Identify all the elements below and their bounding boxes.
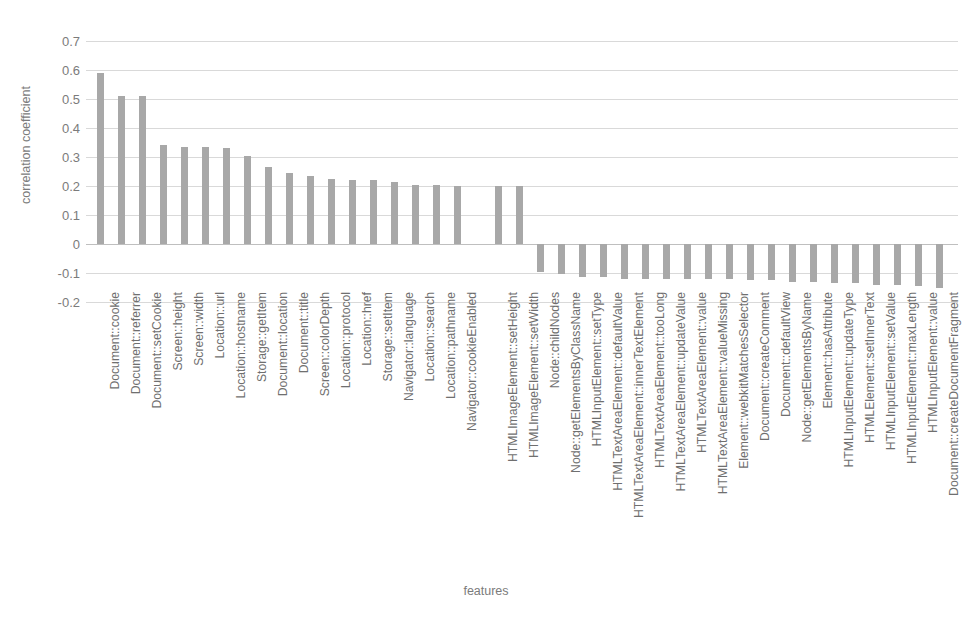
x-axis-category-label-text: HTMLElement::setInnerText — [864, 292, 876, 443]
x-axis-category-label-text: Document::setCookie — [151, 292, 163, 409]
bar — [852, 244, 859, 283]
y-axis-tick: -0.1 — [58, 267, 80, 280]
x-axis-category-label-text: Location::protocol — [340, 292, 352, 388]
x-axis-category-label-text: Document::referrer — [130, 292, 142, 394]
x-axis-category-label-text: Screen::width — [193, 292, 205, 366]
x-axis-category-label-text: Document::cookie — [109, 292, 121, 390]
bar — [810, 244, 817, 282]
x-axis-category-label-text: Document::defaultView — [780, 292, 792, 417]
x-axis-category-label: Document::createDocumentFragment — [944, 292, 956, 496]
bar — [831, 244, 838, 283]
x-axis-category-label: Storage::getItem — [252, 292, 264, 382]
y-axis-tick: -0.2 — [58, 296, 80, 309]
x-axis-category-label: HTMLElement::setInnerText — [860, 292, 872, 443]
x-axis-category-label-text: Document::title — [298, 292, 310, 373]
x-axis-category-label: HTMLInputElement::updateType — [839, 292, 851, 467]
x-axis-category-label-text: HTMLInputElement::value — [927, 292, 939, 433]
bar — [537, 244, 544, 272]
x-axis-category-label: Node::childNodes — [545, 292, 557, 388]
x-axis-category-label: Location::hostname — [231, 292, 243, 398]
x-axis-category-label-text: HTMLTextAreaElement::innerTextElement — [633, 292, 645, 518]
bar — [349, 180, 356, 244]
x-axis-category-label: HTMLInputElement::setValue — [881, 292, 893, 450]
x-axis-category-label: Node::getElementsByClassName — [566, 292, 578, 473]
y-axis-tick: 0.1 — [62, 209, 80, 222]
bar — [495, 186, 502, 244]
bar — [915, 244, 922, 286]
x-axis-category-label-text: Storage::getItem — [256, 292, 268, 382]
y-axis-tick: 0.4 — [62, 122, 80, 135]
x-axis-category-label-text: Screen::colorDepth — [319, 292, 331, 396]
x-axis-category-label-text: Node::getElementsByClassName — [570, 292, 582, 473]
x-axis-category-label: HTMLInputElement::value — [923, 292, 935, 433]
bar — [244, 156, 251, 244]
x-axis-category-label: Location::href — [357, 292, 369, 366]
bar — [139, 96, 146, 244]
bar — [97, 73, 104, 244]
x-axis-category-label: Screen::width — [189, 292, 201, 366]
x-axis-category-label: HTMLImageElement::setWidth — [524, 292, 536, 458]
bar — [265, 167, 272, 244]
x-axis-category-label: HTMLTextAreaElement::updateValue — [671, 292, 683, 491]
y-axis-tick: 0.6 — [62, 64, 80, 77]
y-axis-tick: 0.2 — [62, 180, 80, 193]
x-axis-category-label-text: HTMLTextAreaElement::value — [696, 292, 708, 453]
x-axis-category-label-text: Location::search — [424, 292, 436, 381]
y-axis-title-text: correlation coefficient — [19, 86, 33, 204]
x-axis-category-label: HTMLTextAreaElement::valueMissing — [713, 292, 725, 494]
bar — [223, 148, 230, 244]
bar — [454, 186, 461, 244]
x-axis-category-label: Screen::colorDepth — [315, 292, 327, 396]
x-axis-category-label-text: Element::webkitMatchesSelector — [738, 292, 750, 469]
bar — [579, 244, 586, 277]
x-axis-category-label: Document::defaultView — [776, 292, 788, 417]
x-axis-category-label-text: Navigator::language — [403, 292, 415, 401]
x-axis-category-label: HTMLTextAreaElement::value — [692, 292, 704, 453]
x-axis-category-label-text: HTMLInputElement::setType — [591, 292, 603, 446]
bar — [621, 244, 628, 279]
x-axis-category-label-text: HTMLTextAreaElement::defaultValue — [612, 292, 624, 491]
bar — [391, 182, 398, 244]
x-axis-category-label: Document::createComment — [755, 292, 767, 441]
bar — [600, 244, 607, 277]
bar — [789, 244, 796, 282]
x-axis-category-label: Storage::setItem — [378, 292, 390, 381]
bar — [894, 244, 901, 285]
y-axis-tick: 0.5 — [62, 93, 80, 106]
x-axis-category-label: Document::setCookie — [147, 292, 159, 409]
x-axis-category-label: Document::cookie — [105, 292, 117, 390]
bar — [370, 180, 377, 244]
x-axis-category-label: Document::title — [294, 292, 306, 373]
bar — [705, 244, 712, 279]
bar — [642, 244, 649, 279]
bar — [307, 176, 314, 244]
bar — [202, 147, 209, 244]
plot-area — [86, 0, 958, 292]
y-axis-tick-labels: 0.70.60.50.40.30.20.10-0.1-0.2 — [38, 0, 80, 300]
bar — [747, 244, 754, 280]
bar — [684, 244, 691, 279]
x-axis-category-label-text: HTMLImageElement::setHeight — [507, 292, 519, 462]
x-axis-category-label: HTMLInputElement::maxLength — [902, 292, 914, 464]
x-axis-category-label-text: Location::hostname — [235, 292, 247, 398]
x-axis-category-label-text: Document::location — [277, 292, 289, 396]
x-axis-category-label-text: Screen::height — [172, 292, 184, 371]
bar — [160, 145, 167, 244]
x-axis-category-label: Location::url — [210, 292, 222, 358]
x-axis-category-label-text: Node::childNodes — [549, 292, 561, 388]
bar — [118, 96, 125, 244]
x-axis-category-label: HTMLTextAreaElement::tooLong — [650, 292, 662, 468]
y-axis-tick: 0 — [73, 238, 80, 251]
x-axis-category-label-text: HTMLTextAreaElement::updateValue — [675, 292, 687, 491]
y-axis-title: correlation coefficient — [14, 0, 38, 290]
bar — [936, 244, 943, 288]
x-axis-category-label: Location::pathname — [441, 292, 453, 399]
x-axis-category-label: Document::referrer — [126, 292, 138, 394]
x-axis-category-label: Screen::height — [168, 292, 180, 371]
x-axis-category-label-text: Document::createDocumentFragment — [948, 292, 960, 496]
x-axis-category-label-text: Node::getElementsByName — [801, 292, 813, 442]
x-axis-category-label-text: Storage::setItem — [382, 292, 394, 381]
x-axis-category-label-text: Location::url — [214, 292, 226, 358]
x-axis-category-label-text: Navigator::cookieEnabled — [466, 292, 478, 431]
x-axis-category-label: HTMLTextAreaElement::defaultValue — [608, 292, 620, 491]
